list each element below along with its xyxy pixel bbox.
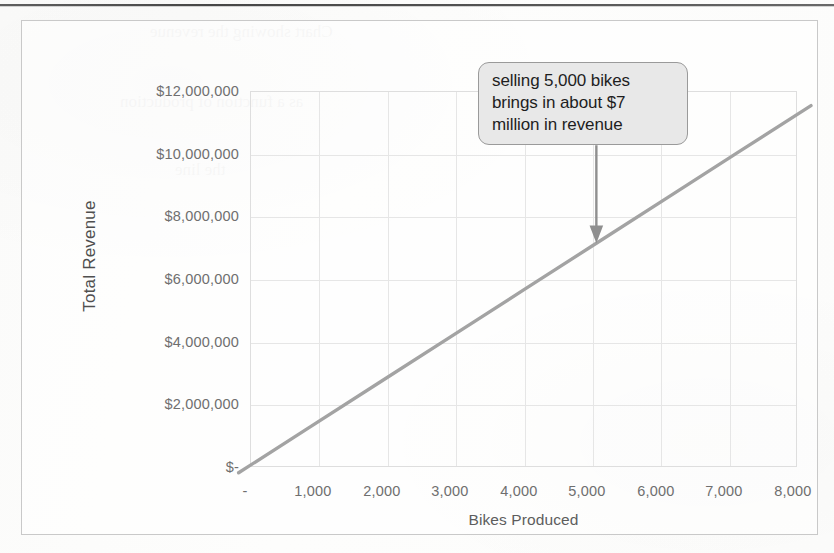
annotation-callout: selling 5,000 bikes brings in about $7 m… — [478, 62, 688, 145]
y-tick-label: $12,000,000 — [156, 83, 239, 99]
x-tick-label: 4,000 — [500, 483, 537, 499]
x-tick-label: 3,000 — [431, 483, 468, 499]
y-tick-label: $10,000,000 — [156, 146, 239, 162]
gridline-horizontal — [251, 343, 796, 344]
y-tick-label: $2,000,000 — [164, 396, 239, 412]
y-tick-label: $- — [226, 459, 239, 475]
annotation-line-2: brings in about $7 — [492, 92, 675, 114]
gridline-vertical — [525, 92, 526, 466]
gridline-vertical — [730, 92, 731, 466]
chart-frame: $12,000,000 $10,000,000 $8,000,000 $6,00… — [21, 20, 818, 535]
y-tick-label: $8,000,000 — [164, 208, 239, 224]
gridline-vertical — [661, 92, 662, 466]
gridline-horizontal — [251, 155, 796, 156]
x-tick-label: 1,000 — [294, 483, 331, 499]
x-tick-label: 7,000 — [705, 483, 742, 499]
gridline-vertical — [593, 92, 594, 466]
x-tick-label: 5,000 — [568, 483, 605, 499]
y-axis-title: Total Revenue — [80, 136, 100, 376]
x-axis-title: Bikes Produced — [250, 511, 797, 529]
gridline-horizontal — [251, 405, 796, 406]
gridline-vertical — [388, 92, 389, 466]
page-top-rule — [0, 4, 834, 6]
x-axis-tick-labels: - 1,000 2,000 3,000 4,000 5,000 6,000 7,… — [22, 483, 834, 505]
gridline-horizontal — [251, 217, 796, 218]
gridline-vertical — [319, 92, 320, 466]
x-tick-label: 8,000 — [774, 483, 811, 499]
annotation-line-1: selling 5,000 bikes — [492, 70, 675, 92]
x-tick-label: 2,000 — [363, 483, 400, 499]
y-axis-tick-labels: $12,000,000 $10,000,000 $8,000,000 $6,00… — [82, 21, 239, 553]
gridline-vertical — [456, 92, 457, 466]
annotation-line-3: million in revenue — [492, 114, 675, 136]
gridline-horizontal — [251, 280, 796, 281]
y-tick-label: $4,000,000 — [164, 334, 239, 350]
y-tick-label: $6,000,000 — [164, 271, 239, 287]
x-tick-label: 6,000 — [637, 483, 674, 499]
plot-area — [250, 91, 797, 467]
x-tick-label: - — [242, 483, 247, 499]
